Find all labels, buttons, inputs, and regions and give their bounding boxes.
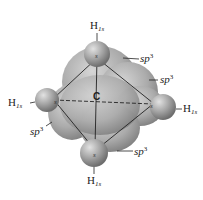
- label-sp3-right: sp3: [160, 74, 173, 85]
- svg-text:s: s: [54, 98, 57, 106]
- label-h1s-right: H1s: [183, 103, 197, 116]
- label-sp3-bottom: sp3: [134, 146, 147, 157]
- label-carbon: C: [93, 92, 100, 102]
- label-h1s-left: H1s: [8, 97, 22, 110]
- label-sp3-top-right: sp3: [140, 53, 153, 64]
- label-sp3-left: sp3: [30, 126, 43, 137]
- svg-text:s: s: [95, 52, 98, 60]
- svg-text:s: s: [93, 151, 96, 159]
- methane-sp3-diagram: s s s s H1s H1s H1s H1s C sp3 s: [0, 0, 203, 200]
- label-h1s-bottom: H1s: [87, 175, 101, 188]
- label-h1s-top: H1s: [90, 20, 104, 33]
- svg-text:s: s: [150, 102, 153, 110]
